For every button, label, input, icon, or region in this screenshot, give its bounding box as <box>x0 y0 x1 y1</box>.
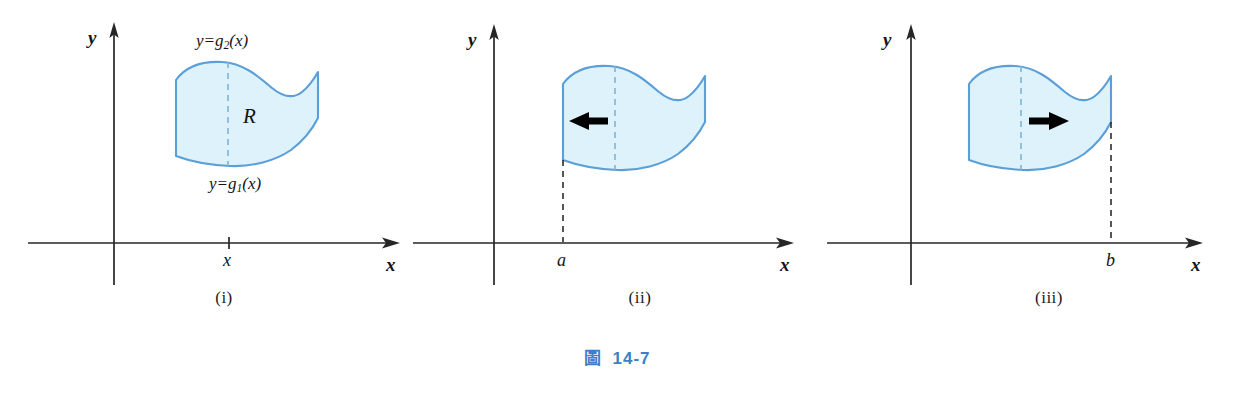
y-axis-label: y <box>468 30 476 49</box>
panel-iii-caption: (iii) <box>843 288 1235 308</box>
panel-i-caption: (i) <box>18 288 430 308</box>
lower-curve-label: y=g1(x) <box>209 175 261 194</box>
x-tick-label: x <box>223 251 231 269</box>
figure-14-7: y x x R y=g2(x) y=g1(x) (i) <box>0 0 1235 398</box>
lower-curve-lhs: y=g <box>209 174 237 193</box>
upper-curve-label: y=g2(x) <box>196 32 248 51</box>
panel-ii: y x a (ii) <box>412 0 824 330</box>
figure-glyph-icon: 圖 <box>584 344 602 369</box>
figure-number: 14-7 <box>612 349 650 368</box>
boundary-label-a: a <box>557 251 566 269</box>
x-axis <box>827 238 1203 249</box>
y-axis <box>489 24 498 285</box>
x-axis-label: x <box>386 255 396 274</box>
panel-ii-caption: (ii) <box>434 288 846 308</box>
x-axis <box>28 238 400 249</box>
lower-curve-rhs: (x) <box>242 174 261 193</box>
x-axis-label: x <box>780 255 790 274</box>
upper-curve-lhs: y=g <box>196 31 224 50</box>
y-axis <box>906 24 915 285</box>
upper-curve-rhs: (x) <box>229 31 248 50</box>
figure-caption: 圖14-7 <box>0 344 1235 369</box>
boundary-label-b: b <box>1106 251 1115 269</box>
x-axis <box>413 238 794 249</box>
y-axis <box>109 22 118 285</box>
panel-i: y x x R y=g2(x) y=g1(x) (i) <box>0 0 412 330</box>
panel-iii: y x b (iii) <box>823 0 1235 330</box>
x-axis-label: x <box>1191 255 1201 274</box>
y-axis-label: y <box>88 28 96 47</box>
region-label-R: R <box>243 106 256 127</box>
y-axis-label: y <box>883 30 891 49</box>
